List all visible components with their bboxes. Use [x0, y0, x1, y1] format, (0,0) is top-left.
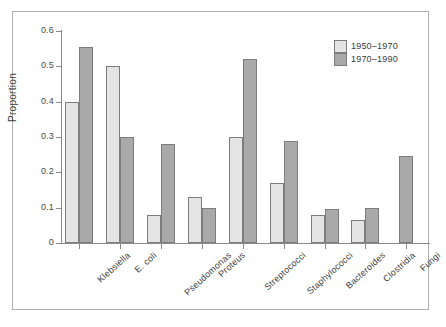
x-tick-mark [243, 244, 244, 249]
bar [120, 137, 134, 243]
bar [399, 156, 413, 243]
y-tick-label: 0.1 [14, 202, 54, 214]
x-tick-mark [284, 244, 285, 249]
y-tick-mark [56, 31, 62, 32]
bar [202, 208, 216, 243]
y-tick-label-text: 0 [20, 237, 54, 247]
x-axis-line [61, 243, 430, 244]
legend-label: 1950–1970 [351, 41, 398, 51]
y-tick-label-text: 0.5 [20, 60, 54, 70]
x-tick-mark [161, 244, 162, 249]
x-tick-mark [325, 244, 326, 249]
y-tick-mark [56, 137, 62, 138]
y-tick-mark [56, 102, 62, 103]
x-tick-mark [365, 244, 366, 249]
bar [365, 208, 379, 243]
bar [270, 183, 284, 243]
bar [325, 209, 339, 243]
legend-swatch [334, 40, 347, 53]
bar [229, 137, 243, 243]
y-tick-label-text: 0.6 [20, 25, 54, 35]
bar [106, 66, 120, 243]
chart-figure: Proportion 00.10.20.30.40.50.6 Klebsiell… [0, 0, 446, 327]
y-tick-label-text: 0.3 [20, 131, 54, 141]
x-tick-mark [202, 244, 203, 249]
y-tick-label: 0.3 [14, 131, 54, 143]
bar [161, 144, 175, 243]
bar [243, 59, 257, 243]
y-tick-mark [56, 172, 62, 173]
y-tick-label: 0.4 [14, 96, 54, 108]
y-tick-label-text: 0.2 [20, 166, 54, 176]
y-tick-mark [56, 243, 62, 244]
x-tick-mark [120, 244, 121, 249]
bar [79, 47, 93, 243]
x-tick-mark [79, 244, 80, 249]
bar [351, 220, 365, 243]
y-tick-mark [56, 66, 62, 67]
y-tick-label: 0 [14, 237, 54, 249]
y-tick-mark [56, 208, 62, 209]
bar [147, 215, 161, 243]
y-tick-label: 0.5 [14, 60, 54, 72]
legend-swatch [334, 53, 347, 66]
x-tick-mark [406, 244, 407, 249]
y-tick-label-text: 0.4 [20, 96, 54, 106]
y-tick-label: 0.6 [14, 25, 54, 37]
bar [284, 141, 298, 243]
bar [65, 102, 79, 243]
y-tick-label: 0.2 [14, 166, 54, 178]
y-tick-label-text: 0.1 [20, 202, 54, 212]
bar [188, 197, 202, 243]
legend-label: 1970–1990 [351, 54, 398, 64]
bar [311, 215, 325, 243]
